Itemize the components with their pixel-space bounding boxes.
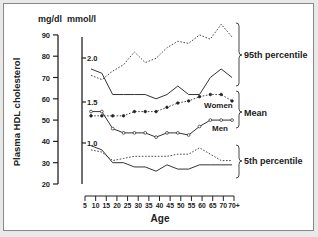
x-tick-label: 55 [188, 202, 196, 209]
x-tick-label: 10 [92, 202, 100, 209]
y-tick-label: 50 [42, 116, 50, 125]
x-tick-label: 50 [177, 202, 185, 209]
y-axis-mgdl: 2030405060708090 [42, 31, 58, 189]
y-tick-label: 30 [42, 159, 50, 168]
y-tick-label: 60 [42, 95, 50, 104]
x-tick-label: 35 [145, 202, 153, 209]
label-women: Women [204, 101, 233, 110]
data-point [111, 127, 114, 130]
x-tick-label: 60 [198, 202, 206, 209]
y-tick-label: 40 [42, 137, 50, 146]
data-point [101, 115, 104, 118]
brace-95th [236, 23, 242, 86]
label-95th-percentile: 95th percentile [244, 50, 308, 60]
y-axis-title: Plasma HDL cholesterol [11, 58, 22, 167]
brace-5th [236, 145, 242, 178]
data-point [220, 119, 223, 122]
data-point [90, 110, 93, 113]
x-tick-label: 30 [134, 202, 142, 209]
x-tick-label: 70 [220, 202, 228, 209]
series-line [91, 146, 232, 172]
data-point [155, 136, 158, 139]
y-tick-label: 90 [42, 31, 50, 40]
data-point [177, 102, 180, 105]
data-point [122, 115, 125, 118]
label-5th-percentile: 5th percentile [244, 156, 303, 166]
y-tick-label: 70 [42, 74, 50, 83]
data-lines [90, 24, 234, 171]
data-point [231, 119, 234, 122]
x-tick-label: 20 [113, 202, 121, 209]
series-line [91, 24, 232, 79]
x-tick-label: 40 [156, 202, 164, 209]
hdl-chart: 2030405060708090 1.01.52.0 5101520253035… [0, 0, 318, 237]
x-tick-label: 70+ [228, 202, 240, 209]
data-point [209, 119, 212, 122]
data-point [220, 93, 223, 96]
data-point [144, 110, 147, 113]
series-line [91, 148, 232, 161]
unit-left-label: mg/dl [38, 14, 62, 24]
x-tick-label: 15 [103, 202, 111, 209]
y2-tick-label: 1.5 [87, 98, 97, 107]
data-point [122, 131, 125, 134]
brace-mean [236, 91, 242, 128]
data-point [166, 106, 169, 109]
y-tick-label: 20 [42, 180, 50, 189]
y2-tick-label: 2.0 [87, 54, 97, 63]
data-point [198, 125, 201, 128]
data-point [187, 100, 190, 103]
data-point [155, 110, 158, 113]
data-point [133, 110, 136, 113]
x-axis: 51015202530354045505560657070+ [83, 196, 240, 209]
data-point [187, 134, 190, 137]
data-point [133, 131, 136, 134]
x-tick-label: 5 [83, 202, 87, 209]
data-point [198, 95, 201, 98]
data-point [166, 131, 169, 134]
data-point [209, 93, 212, 96]
x-axis-title: Age [151, 213, 170, 224]
y-tick-label: 80 [42, 52, 50, 61]
label-men: Men [212, 124, 228, 133]
x-tick-label: 45 [166, 202, 174, 209]
data-point [176, 131, 179, 134]
unit-right-label: mmol/l [67, 14, 96, 24]
data-point [144, 131, 147, 134]
data-point [100, 110, 103, 113]
data-point [90, 115, 93, 118]
data-point [111, 115, 114, 118]
x-tick-label: 25 [124, 202, 132, 209]
label-mean: Mean [244, 108, 267, 118]
x-tick-label: 65 [209, 202, 217, 209]
